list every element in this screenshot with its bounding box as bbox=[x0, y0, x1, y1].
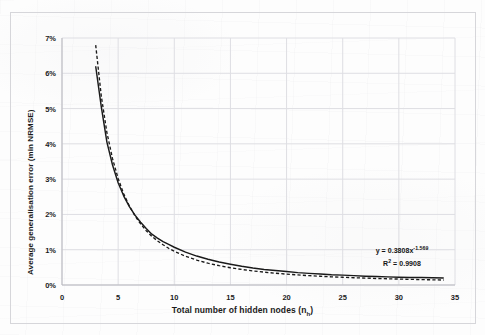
chart-container: 0%1%2%3%4%5%6%7% 05101520253035 Average … bbox=[0, 0, 485, 335]
x-axis-title-main: Total number of hidden nodes (n bbox=[172, 305, 307, 315]
x-axis-title: Total number of hidden nodes (nh) bbox=[0, 305, 485, 317]
x-axis-tick-label: 30 bbox=[385, 293, 413, 302]
x-axis-tick-label: 35 bbox=[441, 293, 469, 302]
x-axis-tick-label: 25 bbox=[329, 293, 357, 302]
x-axis-tick-label: 10 bbox=[160, 293, 188, 302]
x-axis-tick-label: 5 bbox=[104, 293, 132, 302]
y-axis-tick-label: 6% bbox=[28, 69, 56, 78]
x-axis-tick-label: 15 bbox=[216, 293, 244, 302]
y-axis-tick-label: 7% bbox=[28, 34, 56, 43]
equation-prefix: y = 0.3808x bbox=[376, 247, 414, 254]
equation-exponent: -1.569 bbox=[413, 245, 428, 251]
y-axis-tick-label: 0% bbox=[28, 281, 56, 290]
x-axis-tick-label: 20 bbox=[273, 293, 301, 302]
trendline-equation: y = 0.3808x-1.569 bbox=[360, 244, 444, 257]
x-axis-title-close: ) bbox=[310, 305, 313, 315]
plot-canvas bbox=[0, 0, 485, 335]
y-axis-title: Average generalisation error (min NRMSE) bbox=[26, 109, 35, 275]
r-squared-number: = 0.9908 bbox=[391, 261, 421, 268]
r-squared-value: R2 = 0.9908 bbox=[360, 257, 444, 270]
trendline-annotation: y = 0.3808x-1.569 R2 = 0.9908 bbox=[360, 244, 444, 270]
x-axis-tick-label: 0 bbox=[48, 293, 76, 302]
